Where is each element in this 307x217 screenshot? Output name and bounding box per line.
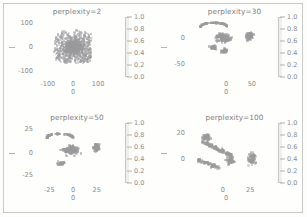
scatter-point (70, 56, 72, 58)
scatter-point (67, 49, 69, 51)
scatter-point (55, 59, 57, 61)
scatter-point (84, 54, 86, 56)
scatter-point (61, 162, 64, 165)
x-tick-label: -100 (40, 80, 55, 88)
scatter-point (56, 41, 58, 43)
y-tick-label: 0 (29, 149, 33, 157)
scatter-point (202, 140, 205, 143)
y-tick-label: 0 (181, 34, 185, 42)
colorbar-tick (127, 29, 132, 30)
colorbar-strip (278, 17, 282, 77)
colorbar-tick (280, 183, 285, 184)
scatter-point (247, 37, 250, 40)
y-tick-label: 0 (29, 43, 33, 51)
colorbar-tick (127, 41, 132, 42)
colorbar-tick (280, 171, 285, 172)
colorbar-tick (280, 17, 285, 18)
plot-area: 100 0 -100 -100 0 100 0 (36, 16, 110, 78)
colorbar-tick-label: 0.4 (134, 49, 144, 57)
colorbar-tick (127, 65, 132, 66)
colorbar: 1.00.80.60.40.20.0 (278, 123, 297, 183)
scatter-point (215, 147, 218, 150)
colorbar-tick (127, 77, 132, 78)
colorbar-tick (280, 77, 285, 78)
scatter-point (220, 22, 223, 25)
y-axis-dash (161, 153, 167, 154)
scatter-point (69, 134, 72, 137)
scatter-point (215, 35, 218, 38)
colorbar-tick (280, 135, 285, 136)
colorbar-tick-label: 1.0 (134, 119, 144, 127)
scatter-point (225, 36, 228, 39)
scatter-point (61, 41, 63, 43)
scatter-points (36, 122, 110, 184)
colorbar: 1.00.80.60.40.20.0 (125, 123, 144, 183)
scatter-point (88, 36, 90, 38)
subplot-perplexity-50: perplexity=50 25 0 -25 -25 0 25 0 1.00.8… (2, 108, 152, 215)
scatter-point (87, 59, 89, 61)
scatter-point (70, 49, 72, 51)
scatter-point (95, 149, 98, 152)
scatter-point (65, 54, 67, 56)
scatter-point (73, 44, 75, 46)
colorbar-tick-label: 1.0 (287, 119, 297, 127)
colorbar-tick-label: 0.8 (287, 131, 297, 139)
colorbar-tick (127, 135, 132, 136)
colorbar-tick (127, 53, 132, 54)
colorbar-tick-label: 0.4 (287, 155, 297, 163)
colorbar-tick-label: 0.2 (287, 61, 297, 69)
scatter-point (84, 60, 86, 62)
colorbar-tick (127, 183, 132, 184)
scatter-point (82, 60, 84, 62)
scatter-point (73, 52, 75, 54)
scatter-point (220, 51, 223, 54)
plot-area: 0 -50 0 50 0 (188, 16, 264, 78)
colorbar-strip (278, 123, 282, 183)
scatter-point (231, 159, 234, 162)
scatter-point (74, 41, 76, 43)
colorbar-tick-label: 0.8 (134, 131, 144, 139)
colorbar-tick (280, 53, 285, 54)
colorbar-tick (127, 147, 132, 148)
colorbar-tick-label: 0.0 (287, 179, 297, 187)
colorbar-tick (127, 171, 132, 172)
colorbar-tick (127, 123, 132, 124)
subplot-perplexity-100: perplexity=100 20 0 0 25 0 1.00.80.60.40… (152, 108, 305, 215)
scatter-point (69, 60, 71, 62)
scatter-point (87, 61, 89, 63)
y-axis-dash (161, 47, 167, 48)
scatter-point (221, 149, 224, 152)
scatter-point (77, 53, 79, 55)
colorbar-tick-label: 0.4 (287, 49, 297, 57)
colorbar-tick-label: 0.2 (287, 167, 297, 175)
colorbar-tick-label: 0.6 (134, 37, 144, 45)
scatter-point (218, 167, 221, 170)
scatter-point (59, 47, 61, 49)
subplot-title: perplexity=2 (2, 7, 152, 16)
scatter-point (70, 151, 73, 154)
y-tick-label: 0 (181, 155, 185, 163)
x-axis-label: 0 (224, 88, 228, 96)
x-tick-label: 100 (92, 80, 105, 88)
scatter-point (83, 38, 85, 40)
scatter-points (36, 16, 110, 78)
colorbar-strip (125, 17, 129, 77)
colorbar-tick-label: 0.0 (287, 73, 297, 81)
scatter-point (201, 136, 204, 139)
subplot-perplexity-2: perplexity=2 100 0 -100 -100 0 100 0 1.0… (2, 2, 152, 108)
scatter-point (248, 34, 251, 37)
scatter-point (255, 161, 258, 164)
colorbar-tick (280, 147, 285, 148)
y-axis-dash (9, 153, 15, 154)
x-tick-label: -25 (44, 186, 55, 194)
scatter-point (67, 40, 69, 42)
scatter-points (188, 122, 264, 184)
subplot-title: perplexity=100 (158, 113, 307, 122)
colorbar: 1.00.80.60.40.20.0 (125, 17, 144, 77)
x-tick-label: 50 (248, 80, 256, 88)
colorbar-tick-label: 0.0 (134, 73, 144, 81)
scatter-point (201, 161, 204, 164)
scatter-point (77, 49, 79, 51)
colorbar-tick (280, 123, 285, 124)
colorbar-tick-label: 1.0 (134, 13, 144, 21)
